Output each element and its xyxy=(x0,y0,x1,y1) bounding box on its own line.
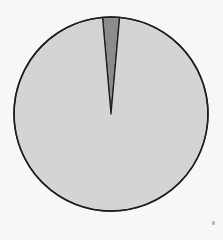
scan-speck xyxy=(212,221,215,225)
pie-chart xyxy=(0,0,223,240)
pie-slices xyxy=(14,17,208,211)
